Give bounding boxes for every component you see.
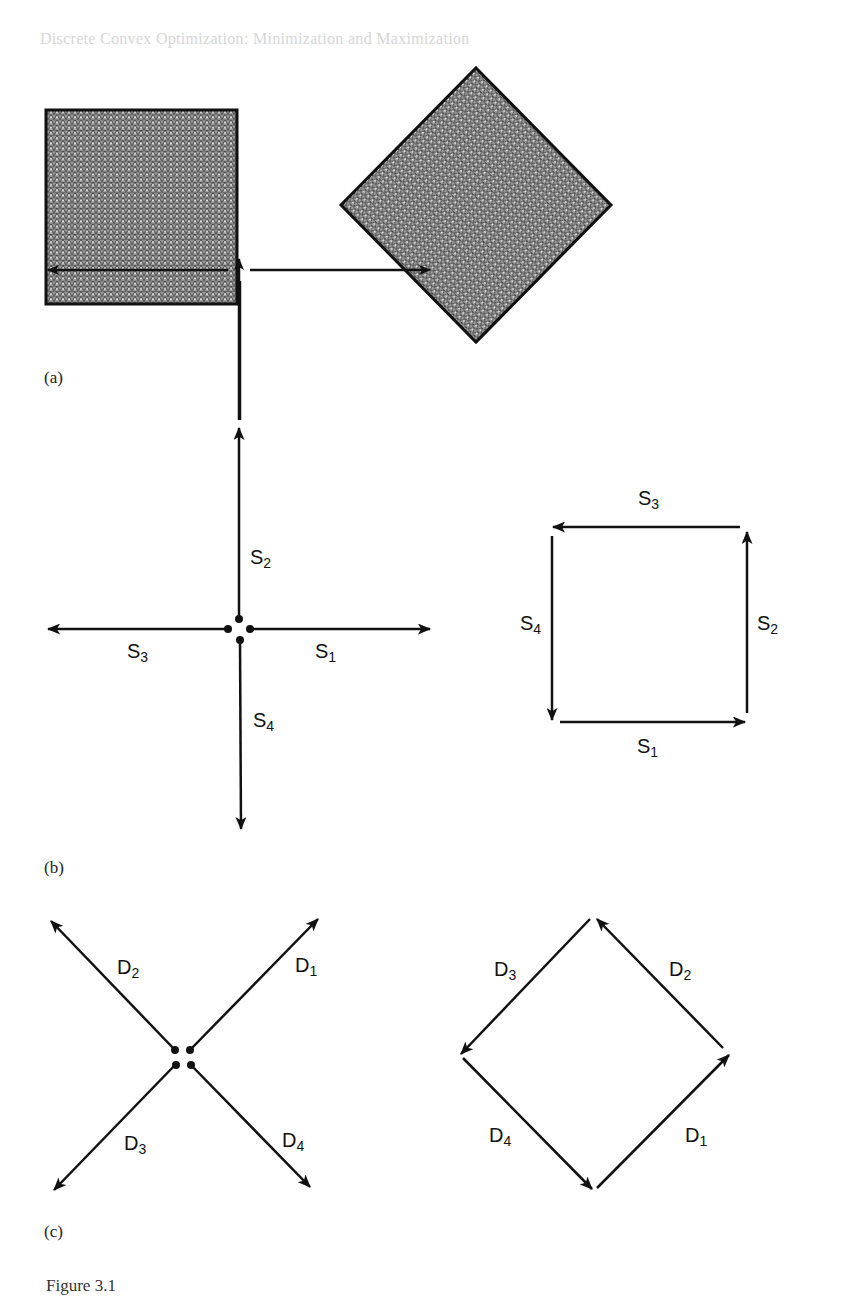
cycle-labels-d: D3 D2 D4 D1: [489, 958, 707, 1149]
arrow-d2: [51, 921, 175, 1050]
star-labels-d: D2 D1 D3 D4: [117, 954, 317, 1157]
edge-d2: [597, 919, 723, 1048]
figure-caption: Figure 3.1: [46, 1276, 116, 1296]
svg-text:D2: D2: [117, 956, 139, 981]
svg-text:D4: D4: [489, 1124, 511, 1149]
edge-d4: [463, 1058, 592, 1189]
arrow-d4: [191, 1065, 310, 1187]
panel-label-b: (b): [44, 858, 64, 878]
svg-text:S4: S4: [520, 612, 541, 637]
svg-text:S1: S1: [637, 735, 658, 760]
svg-text:D4: D4: [282, 1129, 304, 1154]
arrow-s4: [240, 640, 241, 829]
svg-text:S2: S2: [757, 612, 778, 637]
star-diagram-d: [51, 919, 318, 1190]
arrow-d3: [54, 1065, 175, 1190]
star-dots-d: [171, 1046, 195, 1069]
svg-text:D2: D2: [669, 958, 691, 983]
edge-d1: [597, 1055, 729, 1188]
cycle-diagram-s: [552, 527, 747, 722]
svg-text:D3: D3: [124, 1132, 146, 1157]
svg-text:D1: D1: [685, 1124, 707, 1149]
edge-d3: [461, 919, 590, 1054]
svg-text:S3: S3: [638, 487, 659, 512]
svg-text:D1: D1: [295, 954, 317, 979]
arrow-d1: [190, 919, 318, 1050]
panel-label-c: (c): [44, 1222, 63, 1242]
svg-text:D3: D3: [494, 958, 516, 983]
panel-label-a: (a): [44, 368, 63, 388]
